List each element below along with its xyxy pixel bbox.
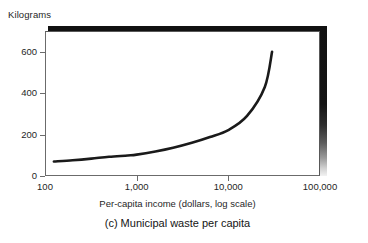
x-tick-label: 10,000 [188,181,268,192]
chart-figure: Kilograms 0200400600 1001,00010,000100,0… [0,0,368,243]
y-tick-mark [40,176,45,177]
plot-shadow-right [320,26,327,176]
y-tick-label: 200 [0,130,37,140]
y-tick-label: 600 [0,47,37,57]
series-line-municipal-waste [54,52,272,162]
y-axis-title: Kilograms [8,9,51,21]
x-tick-label: 1,000 [97,181,177,192]
figure-caption: (c) Municipal waste per capita [0,216,355,230]
x-axis-title: Per-capita income (dollars, log scale) [0,198,355,210]
y-tick-label: 400 [0,88,37,98]
x-tick-label: 100,000 [280,181,360,192]
data-curve [45,31,320,176]
y-tick-label: 0 [0,171,37,181]
x-tick-label: 100 [5,181,85,192]
